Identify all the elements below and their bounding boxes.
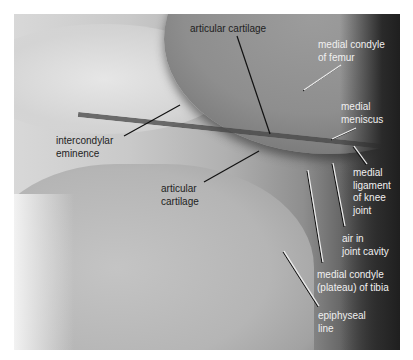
leader-line-medial-ligament-of-knee-joint xyxy=(354,146,367,164)
leader-line-articular-cartilage-bottom xyxy=(204,151,259,182)
label-air-in-joint-cavity: air in joint cavity xyxy=(342,233,389,258)
label-medial-condyle-of-femur: medial condyle of femur xyxy=(318,39,385,64)
leader-line-shadow-air-in-joint-cavity xyxy=(332,164,344,227)
label-intercondylar-eminence: intercondylar eminence xyxy=(56,135,113,160)
leader-line-medial-condyle-plateau-of-tibia xyxy=(308,170,323,262)
leader-line-shadow-epiphyseal-line xyxy=(283,252,318,307)
leader-line-intercondylar-eminence xyxy=(124,105,180,136)
label-articular-cartilage-bottom: articular cartilage xyxy=(161,183,199,208)
leader-line-shadow-medial-ligament-of-knee-joint xyxy=(353,147,366,165)
leader-line-epiphyseal-line xyxy=(284,251,319,306)
label-medial-meniscus: medial meniscus xyxy=(341,101,383,126)
leader-line-air-in-joint-cavity xyxy=(333,163,345,226)
leader-line-shadow-medial-condyle-plateau-of-tibia xyxy=(307,171,322,263)
label-medial-condyle-plateau-of-tibia: medial condyle (plateau) of tibia xyxy=(317,269,389,294)
leader-line-medial-condyle-of-femur xyxy=(304,65,341,90)
label-articular-cartilage-top: articular cartilage xyxy=(190,23,266,36)
leader-line-medial-meniscus xyxy=(332,128,356,139)
knee-radiograph-figure: articular cartilagemedial condyle of fem… xyxy=(0,0,413,360)
leader-line-articular-cartilage-top xyxy=(237,36,270,134)
label-epiphyseal-line: epiphyseal line xyxy=(318,310,366,335)
label-medial-ligament-of-knee-joint: medial ligament of knee joint xyxy=(353,167,391,217)
